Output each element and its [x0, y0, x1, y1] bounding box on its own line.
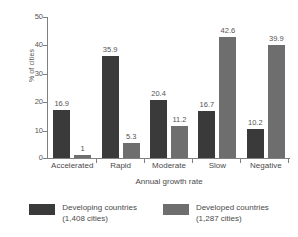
y-tick-label-40: 40: [35, 40, 43, 49]
bar-value-developing-negative: 10.2: [248, 118, 263, 127]
bar-developed-slow: 42.6: [219, 37, 236, 158]
bar-group-accelerated: 16.9 1: [48, 17, 96, 158]
bar-value-developing-slow: 16.7: [200, 100, 215, 109]
bar-value-developing-moderate: 20.4: [151, 89, 166, 98]
bar-developing-negative: 10.2: [247, 129, 264, 158]
category-label-slow: Slow: [193, 161, 241, 170]
bar-developed-moderate: 11.2: [171, 126, 188, 158]
category-label-accelerated: Accelerated: [48, 161, 96, 170]
bar-developed-negative: 39.9: [268, 45, 285, 158]
bar-developing-accelerated: 16.9: [53, 110, 70, 158]
bar-value-developed-negative: 39.9: [269, 34, 284, 43]
legend-item-developed: Developed countries (1,287 cities): [163, 203, 269, 224]
x-axis-title: Annual growth rate: [48, 177, 290, 186]
category-label-negative: Negative: [242, 161, 290, 170]
legend-text-developed: Developed countries (1,287 cities): [196, 203, 269, 224]
legend-text-developing: Developing countries (1,408 cities): [62, 203, 137, 224]
category-label-rapid: Rapid: [96, 161, 144, 170]
plot-area: 50 40 30 20 10 0: [47, 17, 290, 159]
y-tick-label-10: 10: [35, 126, 43, 135]
bar-value-developed-rapid: 5.3: [126, 132, 136, 141]
bar-chart: % of cities 50 40 30 20 10 0: [0, 0, 298, 237]
legend-item-developing: Developing countries (1,408 cities): [29, 203, 137, 224]
bar-value-developed-slow: 42.6: [221, 26, 236, 35]
bar-value-developed-moderate: 11.2: [172, 115, 186, 124]
category-labels: Accelerated Rapid Moderate Slow Negative: [48, 161, 290, 170]
chart-legend: Developing countries (1,408 cities) Deve…: [0, 203, 298, 224]
x-axis-line: [47, 158, 290, 159]
bar-developing-moderate: 20.4: [150, 100, 167, 158]
bar-value-developed-accelerated: 1: [81, 144, 85, 153]
bar-developed-accelerated: 1: [74, 155, 91, 158]
bar-group-negative: 10.2 39.9: [242, 17, 290, 158]
bar-group-slow: 16.7 42.6: [193, 17, 241, 158]
legend-label-developed: Developed countries: [196, 203, 269, 212]
legend-swatch-developed: [163, 204, 189, 215]
legend-count-developing: (1,408 cities): [62, 214, 108, 223]
bar-value-developing-rapid: 35.9: [103, 45, 118, 54]
y-tick-label-0: 0: [39, 153, 43, 162]
legend-label-developing: Developing countries: [62, 203, 137, 212]
bar-group-rapid: 35.9 5.3: [96, 17, 144, 158]
bar-developing-rapid: 35.9: [102, 56, 119, 158]
y-tick-label-50: 50: [35, 12, 43, 21]
bar-groups: 16.9 1 35.9 5.3 20.4 11.2: [48, 17, 290, 158]
bar-group-moderate: 20.4 11.2: [145, 17, 193, 158]
bar-developed-rapid: 5.3: [123, 143, 140, 158]
bar-developing-slow: 16.7: [198, 111, 215, 158]
y-tick-label-20: 20: [35, 97, 43, 106]
legend-swatch-developing: [29, 204, 55, 215]
legend-count-developed: (1,287 cities): [196, 214, 242, 223]
bar-value-developing-accelerated: 16.9: [54, 99, 69, 108]
y-axis-title: % of cities: [28, 36, 35, 96]
category-label-moderate: Moderate: [145, 161, 193, 170]
y-tick-label-30: 30: [35, 69, 43, 78]
